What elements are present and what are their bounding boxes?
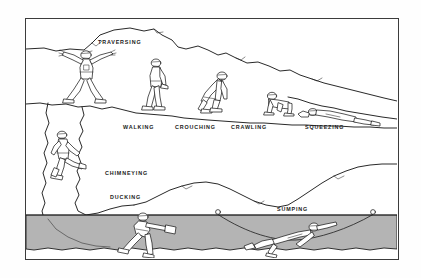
figure-crouching: [198, 72, 227, 113]
label-crouching: CROUCHING: [175, 124, 216, 130]
chimney-shaft-rock: [42, 103, 134, 219]
water-sump: [26, 215, 397, 250]
label-walking: WALKING: [123, 124, 154, 130]
figure-chimneying: [51, 131, 86, 180]
label-sumping: SUMPING: [277, 206, 308, 212]
figure-crawling: [264, 92, 294, 116]
illustration-canvas: TRAVERSING WALKING CROUCHING CRAWLING SQ…: [0, 0, 421, 278]
label-ducking: DUCKING: [110, 194, 141, 200]
cave-cross-section: TRAVERSING WALKING CROUCHING CRAWLING SQ…: [26, 19, 397, 258]
figure-border: TRAVERSING WALKING CROUCHING CRAWLING SQ…: [25, 18, 399, 260]
label-squeezing: SQUEEZING: [305, 124, 344, 130]
label-traversing: TRAVERSING: [98, 39, 141, 45]
label-chimneying: CHIMNEYING: [105, 170, 148, 176]
figure-walking: [142, 59, 168, 110]
figure-traversing: [59, 50, 116, 103]
sump-chamber-ceiling: [134, 164, 397, 207]
label-crawling: CRAWLING: [231, 124, 267, 130]
